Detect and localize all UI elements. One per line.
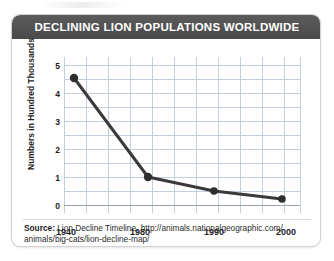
data-point-2000 <box>278 195 286 203</box>
page-title: DECLINING LION POPULATIONS WORLDWIDE <box>35 21 300 33</box>
chart-title-bar: DECLINING LION POPULATIONS WORLDWIDE <box>12 15 321 39</box>
source-label: Source: <box>24 223 55 233</box>
source-line-2: animals/big-cats/lion-decline-map/ <box>24 234 314 245</box>
source-line-1: Lion Decline Timeline, http://animals.na… <box>55 223 283 233</box>
line-chart-graphic <box>12 39 321 224</box>
data-point-1980 <box>144 173 152 181</box>
source-note: Source: Lion Decline Timeline, http://an… <box>24 223 314 244</box>
chart-plot-area: Numbers in Hundred Thousands 5 4 3 2 1 0… <box>12 39 321 214</box>
data-point-1940 <box>70 74 78 82</box>
scan-artifact <box>40 2 160 8</box>
chart-card: DECLINING LION POPULATIONS WORLDWIDE Num… <box>11 14 321 247</box>
source-divider <box>23 219 311 220</box>
screenshot-root: DECLINING LION POPULATIONS WORLDWIDE Num… <box>0 0 334 261</box>
data-line-lion-population <box>74 78 282 199</box>
data-point-1990 <box>210 187 218 195</box>
